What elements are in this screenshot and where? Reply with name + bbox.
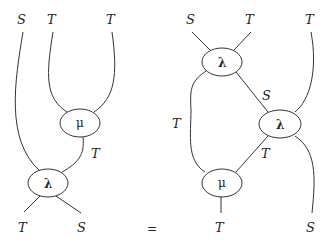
right-top-label-t2: T <box>305 12 315 27</box>
right-wire-label-t-left: T <box>172 116 182 131</box>
right-top-label-t1: T <box>245 12 255 27</box>
left-top-label-t1: T <box>47 12 57 27</box>
right-wire-label-s: S <box>262 88 271 103</box>
left-wire-label-t: T <box>91 146 101 161</box>
right-wire-label-t-mid: T <box>261 146 271 161</box>
left-top-label-s: S <box>17 12 26 27</box>
right-bottom-label-t: T <box>215 220 225 235</box>
right-wire-t-far <box>295 32 314 112</box>
right-lambda-right-label: λ <box>276 118 284 132</box>
left-bottom-label-s: S <box>77 220 86 235</box>
right-wire-out-s <box>295 136 314 213</box>
left-top-label-t2: T <box>106 12 116 27</box>
right-wire-in-s <box>192 32 210 50</box>
right-wire-lambda-t <box>190 71 206 172</box>
diagram-canvas: μ λ S T T T T S = λ λ μ S T T S T T T S <box>0 0 323 247</box>
string-diagram-equation: μ λ S T T T T S = λ λ μ S T T S T T T S <box>0 0 323 247</box>
right-mu-label: μ <box>218 176 226 190</box>
left-wire-t1 <box>49 32 67 112</box>
left-lambda-label: λ <box>44 177 52 191</box>
left-diagram: μ λ S T T T T S <box>15 12 116 235</box>
right-wire-in-t <box>234 32 251 50</box>
right-top-label-s: S <box>186 12 195 27</box>
left-bottom-label-t: T <box>18 220 28 235</box>
equals-sign: = <box>147 222 157 236</box>
left-wire-out-t <box>24 196 40 212</box>
right-diagram: λ λ μ S T T S T T T S <box>172 12 315 235</box>
right-lambda-top-label: λ <box>218 56 226 70</box>
left-wire-mu-lambda <box>62 137 83 172</box>
left-wire-t2 <box>94 32 115 112</box>
right-bottom-label-s: S <box>306 220 315 235</box>
left-wire-out-s <box>56 196 81 213</box>
left-mu-label: μ <box>76 116 84 130</box>
left-wire-s <box>15 32 40 171</box>
